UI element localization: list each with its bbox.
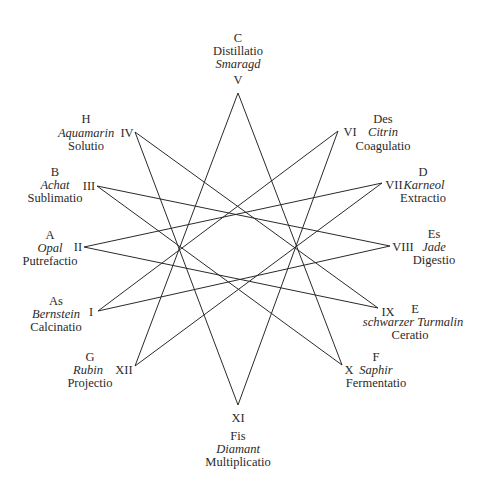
process-label: Calcinatio xyxy=(30,320,81,334)
stone-label: Rubin xyxy=(72,363,103,377)
letter-label: E xyxy=(411,302,419,316)
numeral-label: VII xyxy=(385,178,402,192)
edge-XI-IV xyxy=(135,132,238,405)
numeral-label: II xyxy=(74,240,82,254)
label-group-XI: XI Fis Diamant Multiplicatio xyxy=(205,411,270,469)
label-group-XII: G Rubin Projectio XII xyxy=(67,350,132,390)
label-group-VII: VII D Karneol Extractio xyxy=(385,165,446,205)
process-label: Ceratio xyxy=(392,328,429,342)
process-label: Coagulatio xyxy=(356,139,411,153)
letter-label: C xyxy=(234,31,242,45)
stone-label: Bernstein xyxy=(32,307,80,321)
letter-label: B xyxy=(51,165,59,179)
process-label: Digestio xyxy=(413,253,455,267)
label-group-VI: VI Des Citrin Coagulatio xyxy=(343,112,410,153)
process-label: Sublimatio xyxy=(28,191,83,205)
numeral-label: VI xyxy=(343,125,356,139)
letter-label: G xyxy=(85,350,94,364)
edge-V-X xyxy=(238,93,342,365)
letter-label: F xyxy=(373,350,380,364)
numeral-label: III xyxy=(83,179,96,193)
stone-label: Diamant xyxy=(215,442,260,456)
numeral-label: IV xyxy=(120,126,133,140)
edge-X-III xyxy=(97,186,342,365)
process-label: Solutio xyxy=(68,139,104,153)
label-group-I: As Bernstein Calcinatio I xyxy=(30,294,93,334)
label-group-V: C Distillatio Smaragd V xyxy=(213,31,263,87)
letter-label: Es xyxy=(428,227,441,241)
star-diagram: C Distillatio Smaragd V H Aquamarin Solu… xyxy=(0,0,486,497)
edge-VIII-III xyxy=(97,186,390,246)
letter-label: D xyxy=(418,165,427,179)
edge-IX-IV xyxy=(135,132,378,308)
stone-label: schwarzer Turmalin xyxy=(363,315,463,329)
edge-VII-XII xyxy=(135,183,382,366)
edge-IX-II xyxy=(84,247,378,308)
stone-label: Karneol xyxy=(403,178,446,192)
stone-label: Saphir xyxy=(359,363,392,377)
stone-label: Jade xyxy=(422,240,446,254)
process-label: Extractio xyxy=(400,191,446,205)
stone-label: Aquamarin xyxy=(57,126,114,140)
stone-label: Achat xyxy=(39,178,70,192)
process-label: Putrefactio xyxy=(23,254,78,268)
process-label: Multiplicatio xyxy=(205,455,270,469)
label-group-III: B Achat Sublimatio III xyxy=(28,165,96,205)
letter-label: H xyxy=(81,112,90,126)
letter-label: As xyxy=(49,294,63,308)
numeral-label: XII xyxy=(115,363,132,377)
stone-label: Citrin xyxy=(368,125,398,139)
letter-label: Des xyxy=(373,112,393,126)
numeral-label: XI xyxy=(231,411,244,425)
letter-label: Fis xyxy=(230,429,245,443)
edge-V-XII xyxy=(135,93,238,366)
label-group-X: X F Saphir Fermentatio xyxy=(344,350,406,390)
process-label: Projectio xyxy=(67,376,112,390)
label-group-IV: H Aquamarin Solutio IV xyxy=(57,112,134,153)
process-label: Fermentatio xyxy=(346,376,406,390)
label-group-VIII: VIII Es Jade Digestio xyxy=(392,227,455,267)
numeral-label: VIII xyxy=(392,240,414,254)
label-group-II: A Opal Putrefactio II xyxy=(23,228,83,268)
stone-label: Opal xyxy=(38,241,64,255)
numeral-label: X xyxy=(344,363,353,377)
numeral-label: I xyxy=(89,305,93,319)
stone-label: Smaragd xyxy=(215,57,261,71)
process-label: Distillatio xyxy=(213,44,263,58)
numeral-label: V xyxy=(233,73,242,87)
letter-label: A xyxy=(45,228,54,242)
